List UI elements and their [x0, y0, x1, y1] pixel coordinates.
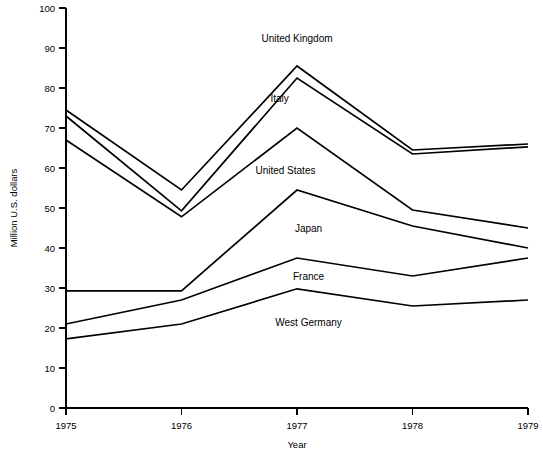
y-axis-tick-label: 30	[44, 283, 55, 294]
x-axis-tick-label: 1976	[171, 420, 192, 431]
series-line-west-germany	[66, 289, 528, 339]
y-axis-tick-label: 50	[44, 203, 55, 214]
y-axis-tick-label: 60	[44, 163, 55, 174]
series-label-united-states: United States	[255, 165, 315, 176]
series-labels: United KingdomItalyUnited StatesJapanFra…	[255, 33, 341, 328]
line-chart: 0102030405060708090100 19751976197719781…	[0, 0, 543, 452]
series-line-united-states	[66, 128, 528, 228]
series-label-france: France	[293, 271, 325, 282]
x-axis-title: Year	[287, 439, 306, 450]
y-axis-tick-label: 0	[50, 403, 55, 414]
series-label-west-germany: West Germany	[275, 317, 342, 328]
series-label-italy: Italy	[271, 93, 289, 104]
y-axis: 0102030405060708090100	[39, 3, 66, 414]
x-axis-tick-label: 1979	[517, 420, 538, 431]
x-axis-tick-label: 1975	[55, 420, 76, 431]
y-axis-tick-label: 10	[44, 363, 55, 374]
x-axis-tick-label: 1978	[402, 420, 423, 431]
y-axis-tick-label: 40	[44, 243, 55, 254]
y-axis-tick-label: 90	[44, 43, 55, 54]
series-label-japan: Japan	[295, 223, 322, 234]
y-axis-tick-label: 70	[44, 123, 55, 134]
y-axis-title: Million U.S. dollars	[8, 168, 19, 247]
x-axis: 19751976197719781979	[55, 408, 538, 431]
y-axis-tick-label: 100	[39, 3, 55, 14]
series-label-united-kingdom: United Kingdom	[261, 33, 332, 44]
y-axis-tick-label: 20	[44, 323, 55, 334]
chart-canvas: 0102030405060708090100 19751976197719781…	[0, 0, 543, 452]
y-axis-tick-label: 80	[44, 83, 55, 94]
x-axis-tick-label: 1977	[286, 420, 307, 431]
series-lines	[66, 66, 528, 339]
